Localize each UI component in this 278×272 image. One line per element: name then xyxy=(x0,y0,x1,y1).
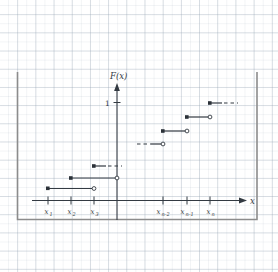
open-circle-1 xyxy=(115,176,119,180)
open-circle-3 xyxy=(161,142,165,146)
x-tick-label-n: x n xyxy=(207,208,215,217)
svg-text:2: 2 xyxy=(72,211,76,217)
y-axis-label: F(x) xyxy=(109,71,127,81)
closed-dot-4 xyxy=(161,129,165,133)
svg-text:1: 1 xyxy=(50,211,53,217)
closed-endpoint-markers xyxy=(46,101,212,190)
closed-dot-2 xyxy=(92,164,96,168)
x-tick-label-n-minus-1: x n-1 xyxy=(181,208,194,217)
figure-frame xyxy=(18,72,258,220)
y-axis xyxy=(114,83,120,220)
svg-text:x: x xyxy=(91,208,95,216)
svg-text:x: x xyxy=(45,208,49,216)
cdf-figure: F(x) x 1 x 1 x 2 x 3 x n-2 x n-1 x n xyxy=(0,0,278,272)
y-tick-label-one: 1 xyxy=(105,99,110,108)
svg-text:x: x xyxy=(181,208,185,216)
svg-text:x: x xyxy=(157,208,161,216)
open-circle-5 xyxy=(208,115,212,119)
open-endpoint-markers xyxy=(92,115,212,190)
x-axis-label: x xyxy=(250,196,255,206)
closed-dot-5 xyxy=(185,115,189,119)
svg-text:x: x xyxy=(207,208,211,216)
x-tick-label-3: x 3 xyxy=(91,208,99,217)
svg-text:n: n xyxy=(212,211,215,217)
open-circle-0 xyxy=(92,187,96,191)
closed-dot-0 xyxy=(46,187,50,191)
x-axis xyxy=(32,198,247,204)
x-tick-label-2: x 2 xyxy=(68,208,76,217)
closed-dot-1 xyxy=(69,176,73,180)
svg-text:3: 3 xyxy=(96,211,99,217)
x-tick-label-n-minus-2: x n-2 xyxy=(157,208,170,217)
open-circle-4 xyxy=(185,129,189,133)
closed-dot-6 xyxy=(208,101,212,105)
svg-text:x: x xyxy=(68,208,72,216)
svg-text:n-2: n-2 xyxy=(162,211,170,217)
x-tick-label-1: x 1 xyxy=(45,208,53,217)
svg-text:n-1: n-1 xyxy=(186,211,194,217)
